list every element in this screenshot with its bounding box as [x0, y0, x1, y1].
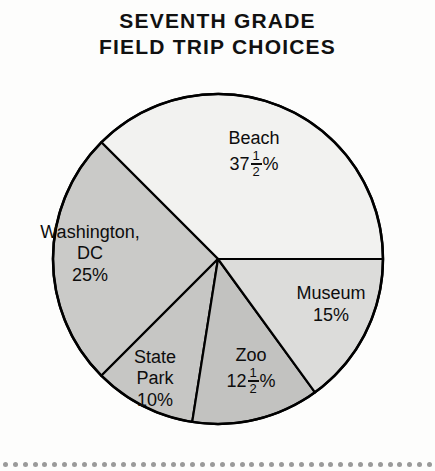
zoo-whole-number: 12: [226, 372, 246, 390]
zoo-fraction-denominator: 2: [248, 383, 257, 395]
divider-dot: [220, 462, 225, 467]
divider-dot: [102, 462, 107, 467]
divider-dot: [72, 462, 77, 467]
divider-dot: [131, 462, 136, 467]
divider-dot: [210, 462, 215, 467]
divider-dot: [180, 462, 185, 467]
divider-dot: [62, 462, 67, 467]
divider-dot: [92, 462, 97, 467]
pie-chart: Beach 37 1 2 % Washington, DC 25%: [0, 0, 435, 471]
pie-label-beach-name: Beach: [192, 128, 316, 149]
divider-dot: [279, 462, 284, 467]
divider-dot: [289, 462, 294, 467]
divider-dot: [23, 462, 28, 467]
divider-dot: [407, 462, 412, 467]
divider-dot: [309, 462, 314, 467]
divider-dot: [42, 462, 47, 467]
beach-percent-sign: %: [263, 155, 279, 173]
divider-dot: [111, 462, 116, 467]
pie-label-zoo: Zoo 12 1 2 %: [196, 345, 306, 395]
pie-label-zoo-value: 12 1 2 %: [196, 367, 306, 395]
pie-label-beach-value: 37 1 2 %: [192, 150, 316, 178]
beach-fraction-numerator: 1: [251, 150, 260, 162]
worksheet-page: SEVENTH GRADE FIELD TRIP CHOICES Beach 3…: [0, 0, 435, 471]
divider-dot: [328, 462, 333, 467]
divider-dot: [190, 462, 195, 467]
divider-dot: [299, 462, 304, 467]
zoo-fraction-numerator: 1: [248, 367, 257, 379]
divider-dot: [230, 462, 235, 467]
divider-dot: [269, 462, 274, 467]
pie-label-washington-line-2: DC: [22, 243, 158, 264]
pie-label-museum-name: Museum: [268, 283, 394, 304]
divider-dot: [151, 462, 156, 467]
pie-label-museum: Museum 15%: [268, 283, 394, 326]
divider-dot: [33, 462, 38, 467]
divider-dot: [378, 462, 383, 467]
zoo-fraction: 1 2: [248, 367, 259, 395]
pie-label-museum-value: 15%: [268, 305, 394, 326]
divider-dot: [319, 462, 324, 467]
dotted-divider: [0, 458, 435, 470]
pie-label-washington-dc: Washington, DC 25%: [22, 222, 158, 286]
pie-label-state-park: State Park 10%: [112, 347, 198, 411]
pie-label-washington-line-1: Washington,: [22, 222, 158, 243]
divider-dot: [249, 462, 254, 467]
divider-dot: [161, 462, 166, 467]
divider-dot: [52, 462, 57, 467]
pie-label-beach: Beach 37 1 2 %: [192, 128, 316, 178]
beach-fraction-denominator: 2: [251, 166, 260, 178]
divider-dot: [397, 462, 402, 467]
divider-dot: [171, 462, 176, 467]
pie-label-washington-value: 25%: [22, 265, 158, 286]
beach-whole-number: 37: [229, 155, 249, 173]
divider-dot: [338, 462, 343, 467]
divider-dot: [388, 462, 393, 467]
divider-dot: [141, 462, 146, 467]
divider-dot: [427, 462, 432, 467]
divider-dot: [13, 462, 18, 467]
divider-dot: [368, 462, 373, 467]
divider-dot: [348, 462, 353, 467]
pie-label-state-park-line-2: Park: [112, 368, 198, 389]
divider-dot: [358, 462, 363, 467]
divider-dot: [3, 462, 8, 467]
divider-dot: [121, 462, 126, 467]
beach-fraction: 1 2: [251, 150, 262, 178]
pie-label-zoo-name: Zoo: [196, 345, 306, 366]
divider-dot: [417, 462, 422, 467]
zoo-percent-sign: %: [260, 372, 276, 390]
pie-label-state-park-line-1: State: [112, 347, 198, 368]
divider-dot: [259, 462, 264, 467]
pie-label-state-park-value: 10%: [112, 390, 198, 411]
divider-dot: [240, 462, 245, 467]
divider-dot: [200, 462, 205, 467]
divider-dot: [82, 462, 87, 467]
